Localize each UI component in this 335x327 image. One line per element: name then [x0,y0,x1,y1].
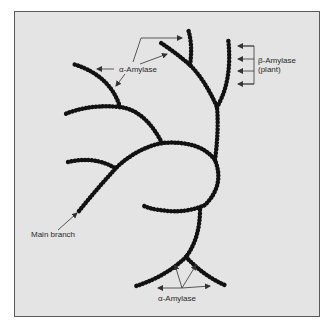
beta-amylase-label: β-Amylase (plant) [258,56,296,74]
main-branch-label: Main branch [31,230,75,239]
alpha-amylase-label-top: α-Amylase [119,65,157,74]
main-branch-arrow [58,213,77,230]
top-branch [188,29,191,65]
alpha-amylase-arrow-up-right [133,38,182,62]
side-branch-upper-left [73,64,120,107]
right-branch-beta [217,38,229,107]
bottom-alpha-arrow-3 [182,265,196,288]
bottom-alpha-arrow-4 [182,286,210,288]
side-branch-lower-left [68,160,115,168]
beta-amylase-bracket [243,46,254,84]
annotation-arrows [58,38,254,288]
beta-amylase-label-line2: (plant) [258,65,296,74]
alpha-amylase-label-bottom: α-Amylase [158,294,196,303]
bottom-alpha-arrow-2 [175,265,182,288]
bottom-stem [186,210,200,257]
glucose-chain-diagram [0,0,335,327]
alpha-amylase-arrow-right [140,54,167,64]
side-branch-middle-left [65,106,162,143]
beta-amylase-label-line1: β-Amylase [258,56,296,65]
alpha-amylase-arrow-down [116,74,125,86]
main-branch-chain [79,143,218,212]
bottom-left-branch [136,257,186,286]
